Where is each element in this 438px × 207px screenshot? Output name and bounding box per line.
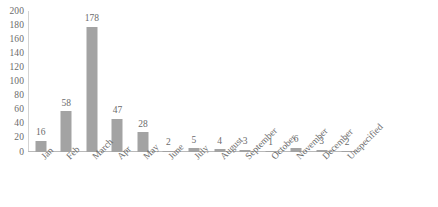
bar-group: 5 [181, 11, 207, 152]
y-axis-tick-label: 20 [0, 133, 24, 143]
bar-value-label: 16 [36, 128, 46, 138]
y-axis-tick-label: 100 [0, 77, 24, 87]
x-axis-tick: July [181, 153, 207, 207]
x-axis-tick: October [258, 153, 284, 207]
x-axis-tick: September [232, 153, 258, 207]
bar-group: 2 [156, 11, 182, 152]
x-axis-tick: June [156, 153, 182, 207]
bar-group: 58 [54, 11, 80, 152]
bar-value-label: 4 [217, 137, 222, 147]
bar-value-label: 47 [113, 106, 123, 116]
plot-area: 1658178472825431632 [28, 11, 360, 152]
y-axis-tick-label: 0 [0, 148, 24, 158]
y-axis-tick-label: 200 [0, 7, 24, 17]
y-axis-tick-label: 140 [0, 49, 24, 59]
bar-chart: 200180160140120100806040200 165817847282… [0, 0, 438, 207]
bar-value-label: 2 [166, 138, 171, 148]
bar-group: 6 [283, 11, 309, 152]
y-axis-tick-label: 60 [0, 105, 24, 115]
x-axis-tick: Jan [28, 153, 54, 207]
x-axis-tick: May [130, 153, 156, 207]
bar[interactable] [86, 27, 97, 152]
bar[interactable] [61, 111, 72, 152]
x-axis-tick: Unspecified [334, 153, 360, 207]
bar-group: 28 [130, 11, 156, 152]
x-axis-tick: March [79, 153, 105, 207]
x-axis-tick: December [309, 153, 335, 207]
bar-group: 16 [28, 11, 54, 152]
y-axis-tick-label: 120 [0, 63, 24, 73]
bar-value-label: 58 [62, 99, 72, 109]
bar-group: 47 [105, 11, 131, 152]
bar-group: 4 [207, 11, 233, 152]
y-axis-tick-label: 40 [0, 119, 24, 129]
x-axis-tick: Feb [54, 153, 80, 207]
y-axis-tick-label: 80 [0, 91, 24, 101]
bar-group: 3 [232, 11, 258, 152]
x-axis-tick: Apr [105, 153, 131, 207]
bar-group: 178 [79, 11, 105, 152]
y-axis-tick-label: 160 [0, 35, 24, 45]
x-axis-tick: August [207, 153, 233, 207]
bar-value-label: 5 [192, 136, 197, 146]
x-axis: JanFebMarchAprMayJuneJulyAugustSeptember… [28, 153, 360, 207]
y-axis-tick-label: 180 [0, 21, 24, 31]
bar-value-label: 178 [85, 14, 99, 24]
y-axis: 200180160140120100806040200 [0, 0, 24, 207]
x-axis-tick: November [283, 153, 309, 207]
bar-value-label: 28 [138, 120, 148, 130]
